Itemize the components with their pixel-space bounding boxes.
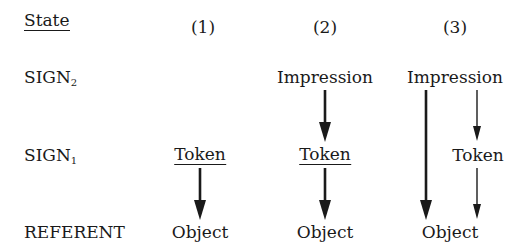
col1-token-to-object-arrow	[194, 168, 206, 220]
col2-token-to-object-arrow	[319, 168, 331, 220]
arrows-layer	[0, 0, 522, 249]
col3-impression-to-token-arrow	[473, 90, 481, 141]
col3-token-to-object-arrow	[473, 168, 481, 219]
col2-impression-to-token-arrow	[319, 90, 331, 142]
col3-impression-to-object-arrow	[420, 90, 432, 220]
